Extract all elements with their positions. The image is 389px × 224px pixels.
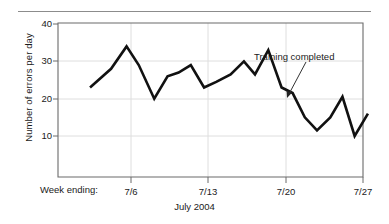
x-tick-label-7-6: 7/6 (118, 187, 144, 197)
training-completed-annotation: Training completed (254, 52, 334, 62)
y-gridlines (58, 61, 363, 136)
x-tick-label-7-20: 7/20 (271, 187, 301, 197)
x-tick-marks (131, 177, 363, 183)
plot-frame (58, 23, 363, 177)
y-tick-marks (53, 24, 58, 136)
x-tick-label-7-27: 7/27 (348, 187, 378, 197)
training-completed-arrow (287, 62, 306, 98)
week-ending-prefix-label: Week ending: (40, 185, 98, 195)
x-tick-label-7-13: 7/13 (193, 187, 223, 197)
chart-figure: Number of errors per day 40 30 20 10 (0, 0, 389, 224)
x-axis-label: July 2004 (0, 202, 389, 212)
